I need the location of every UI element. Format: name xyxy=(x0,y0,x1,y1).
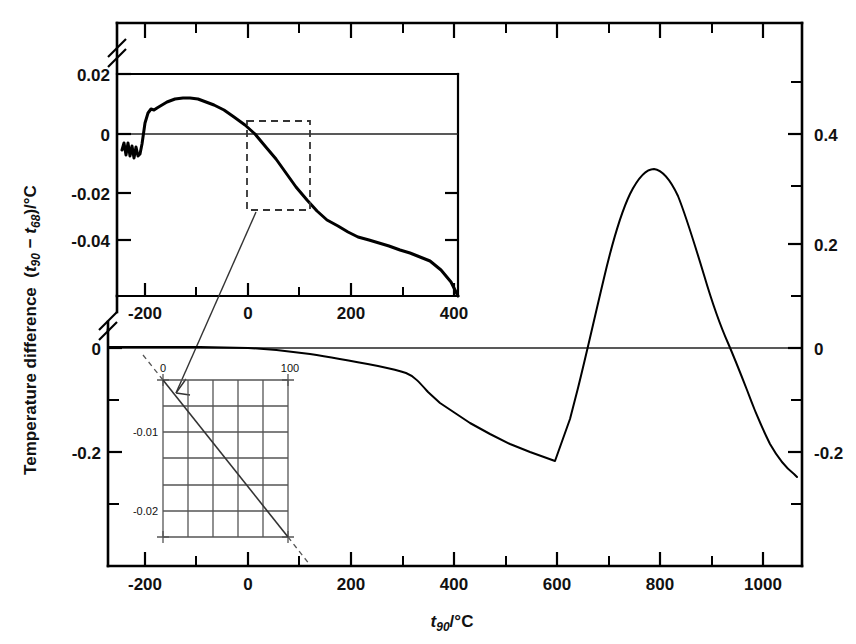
inset-xlabel-minus200: -200 xyxy=(128,304,162,323)
main-xlabel-0: 0 xyxy=(243,575,252,594)
main-xlabel-800: 800 xyxy=(646,575,674,594)
inset-ylabel-0: 0 xyxy=(101,126,110,145)
main-xlabel-600: 600 xyxy=(543,575,571,594)
main-ylabel-right-0p2: 0.2 xyxy=(814,236,838,255)
main-top-ticks xyxy=(145,23,763,38)
main-ylabel-right-0: 0 xyxy=(814,340,823,359)
inset-ylabel-0p02: 0.02 xyxy=(77,66,110,85)
x-axis-title-group: t90/°C xyxy=(431,612,474,634)
grid-ylabel-minus0p01: -0.01 xyxy=(133,426,158,438)
main-xlabel-1000: 1000 xyxy=(744,575,782,594)
inset-data-curve xyxy=(122,98,458,296)
main-ylabel-left-0: 0 xyxy=(92,340,101,359)
magnified-grid-inset-panel: 0 100 -0.01 -0.02 xyxy=(133,355,310,565)
y-axis-title-prefix: Temperature difference xyxy=(21,287,40,475)
y-axis-title-units: )/°C xyxy=(21,185,40,214)
figure-container: 0.02 0 -0.02 -0.04 -200 0 200 400 xyxy=(0,0,856,644)
temperature-difference-chart: 0.02 0 -0.02 -0.04 -200 0 200 400 xyxy=(0,0,856,644)
x-axis-title: t90/°C xyxy=(431,612,474,634)
inset-xlabel-400: 400 xyxy=(440,304,468,323)
inset-ylabel-minus0p04: -0.04 xyxy=(71,232,110,251)
x-axis-title-units: /°C xyxy=(450,612,474,631)
inset-xlabel-200: 200 xyxy=(337,304,365,323)
grid-xlabel-0: 0 xyxy=(160,362,166,374)
main-data-curve-group xyxy=(109,169,797,477)
main-xlabel-200: 200 xyxy=(337,575,365,594)
y-axis-title-group: Temperature difference (t90 − t68)/°C xyxy=(21,185,43,475)
main-xlabel-minus200: -200 xyxy=(128,575,162,594)
grid-corner-cross-bottomleft xyxy=(157,531,169,543)
inset-ylabel-minus0p02: -0.02 xyxy=(71,185,110,204)
magnification-leader-line xyxy=(176,212,256,393)
main-ylabel-left-minus0p2: -0.2 xyxy=(72,444,101,463)
x-axis-title-subscript: 90 xyxy=(436,620,450,634)
grid-corner-cross-topright xyxy=(282,374,294,386)
y-axis-title-t90-subscript: 90 xyxy=(29,253,43,267)
grid-xlabel-100: 100 xyxy=(281,362,299,374)
main-xlabel-400: 400 xyxy=(440,575,468,594)
main-ylabel-right-0p4: 0.4 xyxy=(814,126,838,145)
y-axis-title: Temperature difference (t90 − t68)/°C xyxy=(21,185,43,475)
y-axis-title-t68-subscript: 68 xyxy=(29,214,43,228)
grid-ylabel-minus0p02: -0.02 xyxy=(133,505,158,517)
main-ylabel-right-minus0p2: -0.2 xyxy=(814,444,843,463)
low-temperature-inset-panel: 0.02 0 -0.02 -0.04 -200 0 200 400 xyxy=(71,66,468,395)
y-axis-title-minus: − xyxy=(21,238,40,248)
inset-xlabel-0: 0 xyxy=(243,304,252,323)
main-data-curve xyxy=(109,169,797,477)
